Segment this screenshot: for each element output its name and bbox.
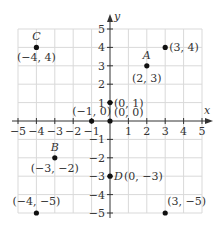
x-tick-label: −3	[47, 125, 63, 138]
y-tick-label: 4	[98, 41, 105, 54]
point-name-label: D	[113, 170, 123, 183]
x-tick-label: 5	[199, 125, 206, 138]
points: (−4, 4)C(2, 3)A(3, 4)(0, 1)(0, 0)(−1, 0)…	[12, 30, 206, 215]
x-tick-label: −5	[10, 125, 26, 138]
y-tick-label: 5	[98, 23, 105, 36]
y-tick-label: −4	[89, 189, 105, 202]
point-marker	[107, 174, 112, 179]
point-coordinate-label: (3, 4)	[169, 41, 199, 54]
x-tick-label: 3	[162, 125, 169, 138]
point-marker	[163, 45, 168, 50]
point-coordinate-label: (0, 0)	[114, 106, 144, 119]
y-axis-arrow-icon	[107, 14, 113, 22]
point-coordinate-label: (3, −5)	[167, 195, 206, 208]
y-axis-label: y	[113, 10, 121, 23]
point-coordinate-label: (−4, 4)	[17, 51, 56, 64]
point-a: (2, 3)A	[132, 49, 162, 85]
coordinate-plane: x y −5−4−3−2−11234554321−1−2−3−4−5 (−4, …	[0, 0, 223, 229]
point-marker	[34, 210, 39, 215]
point-name-label: A	[142, 49, 151, 62]
x-axis-label: x	[204, 104, 211, 117]
point-marker	[52, 155, 57, 160]
point-d: (0, −3)D	[107, 170, 162, 183]
y-tick-label: 3	[98, 60, 105, 73]
y-tick-label: −2	[89, 152, 105, 165]
point-marker	[144, 63, 149, 68]
point-coordinate-label: (0, −3)	[124, 170, 163, 183]
y-tick-label: −5	[89, 207, 105, 220]
x-tick-label: −2	[65, 125, 81, 138]
y-tick-label: 2	[98, 78, 105, 91]
x-tick-label: 2	[143, 125, 150, 138]
point-name-label: C	[32, 30, 41, 43]
point-marker	[89, 118, 94, 123]
x-axis-arrow-icon	[205, 118, 213, 124]
x-tick-label: −4	[28, 125, 44, 138]
point-coordinate-label: (−1, 0)	[72, 105, 111, 118]
point-coordinate-label: (−4, −5)	[12, 195, 60, 208]
y-tick-label: −1	[89, 133, 105, 146]
point-marker	[34, 45, 39, 50]
point-marker	[163, 210, 168, 215]
point-name-label: B	[50, 141, 59, 154]
x-tick-label: 4	[180, 125, 187, 138]
point-marker	[107, 118, 112, 123]
point-coordinate-label: (−3, −2)	[31, 162, 79, 175]
x-tick-label: 1	[125, 125, 132, 138]
y-tick-label: −3	[89, 170, 105, 183]
point-coordinate-label: (2, 3)	[132, 72, 162, 85]
